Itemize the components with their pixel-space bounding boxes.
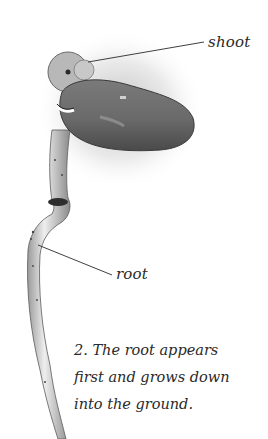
root-bend xyxy=(48,198,68,206)
root-label: root xyxy=(116,265,148,283)
caption-line-2: first and grows down xyxy=(74,364,230,391)
caption-line-1: 2. The root appears xyxy=(74,337,230,364)
root-leader-line xyxy=(38,245,112,275)
caption: 2. The root appears first and grows down… xyxy=(74,337,230,418)
seed-diagram: shoot root 2. The root appears first and… xyxy=(0,0,268,439)
root-shape xyxy=(28,130,71,439)
caption-line-3: into the ground. xyxy=(74,391,230,418)
shoot-label: shoot xyxy=(208,33,250,51)
